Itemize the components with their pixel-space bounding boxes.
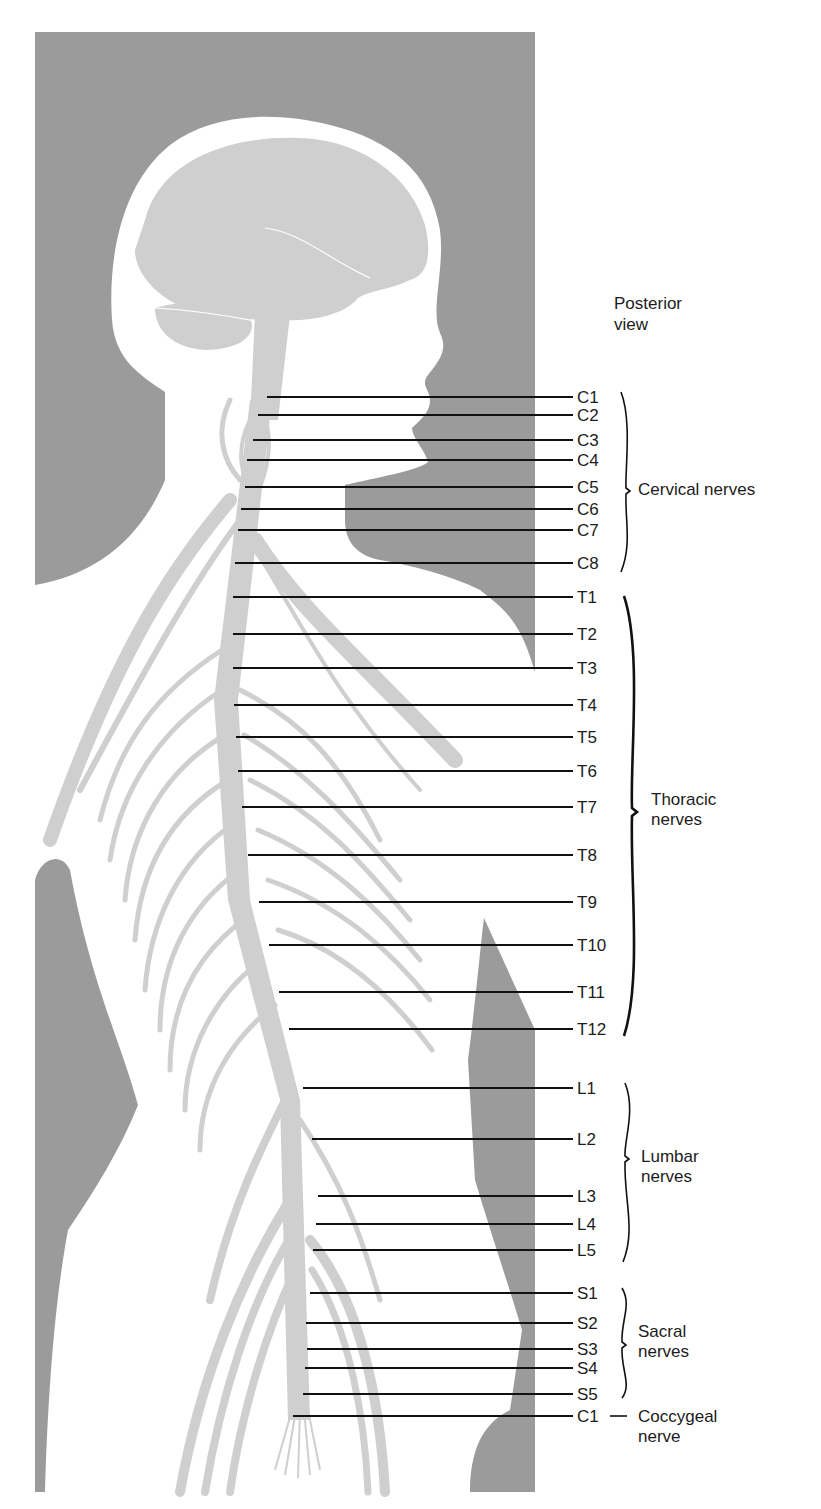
nerve-label-cervical-c7: C7 xyxy=(577,522,599,539)
nerve-label-thoracic-t5: T5 xyxy=(577,729,597,746)
nerve-label-lumbar-l2: L2 xyxy=(577,1131,596,1148)
cervical-brace xyxy=(621,392,630,572)
nerve-label-sacral-s1: S1 xyxy=(577,1285,598,1302)
nerve-label-sacral-s3: S3 xyxy=(577,1341,598,1358)
spinal-nerves-illustration xyxy=(0,0,821,1509)
nerve-label-thoracic-t1: T1 xyxy=(577,589,597,606)
nerve-label-thoracic-t10: T10 xyxy=(577,937,606,954)
nerve-label-thoracic-t6: T6 xyxy=(577,763,597,780)
nerve-label-cervical-c5: C5 xyxy=(577,479,599,496)
nerve-label-cervical-c3: C3 xyxy=(577,432,599,449)
group-label-coccygeal: Coccygeal nerve xyxy=(638,1407,717,1447)
group-label-sacral: Sacral nerves xyxy=(638,1322,689,1362)
nerve-label-lumbar-l1: L1 xyxy=(577,1080,596,1097)
nerve-label-thoracic-t7: T7 xyxy=(577,799,597,816)
nerve-label-sacral-s4: S4 xyxy=(577,1360,598,1377)
view-caption: Posterior view xyxy=(614,293,682,335)
nerve-label-coccygeal-c1: C1 xyxy=(577,1408,599,1425)
group-label-thoracic: Thoracic nerves xyxy=(651,790,716,830)
nerve-label-thoracic-t9: T9 xyxy=(577,894,597,911)
thoracic-brace xyxy=(624,596,637,1036)
nerve-label-lumbar-l3: L3 xyxy=(577,1188,596,1205)
nerve-label-thoracic-t4: T4 xyxy=(577,697,597,714)
lumbar-brace xyxy=(623,1083,630,1262)
nerve-label-cervical-c1: C1 xyxy=(577,389,599,406)
nerve-label-thoracic-t2: T2 xyxy=(577,626,597,643)
nerve-label-thoracic-t8: T8 xyxy=(577,847,597,864)
nerve-label-cervical-c8: C8 xyxy=(577,555,599,572)
group-braces xyxy=(610,392,637,1416)
nerve-label-lumbar-l5: L5 xyxy=(577,1242,596,1259)
nerve-label-cervical-c2: C2 xyxy=(577,407,599,424)
sacral-brace xyxy=(622,1288,626,1398)
nerve-label-thoracic-t12: T12 xyxy=(577,1021,606,1038)
nerve-label-thoracic-t11: T11 xyxy=(577,984,605,1001)
nerve-label-sacral-s5: S5 xyxy=(577,1386,598,1403)
view-caption-line1: Posterior xyxy=(614,293,682,314)
group-label-lumbar: Lumbar nerves xyxy=(641,1147,699,1187)
nerve-label-cervical-c6: C6 xyxy=(577,501,599,518)
group-label-cervical: Cervical nerves xyxy=(638,480,755,500)
nerve-label-lumbar-l4: L4 xyxy=(577,1216,596,1233)
view-caption-line2: view xyxy=(614,314,682,335)
nerve-label-sacral-s2: S2 xyxy=(577,1315,598,1332)
nerve-label-thoracic-t3: T3 xyxy=(577,660,597,677)
nerve-label-cervical-c4: C4 xyxy=(577,452,599,469)
